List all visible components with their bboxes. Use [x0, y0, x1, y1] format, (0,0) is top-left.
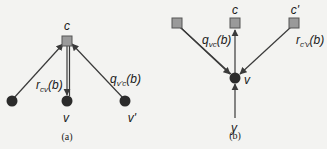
- variable-node-v: [230, 73, 241, 84]
- check-node-left: [172, 18, 182, 28]
- variable-node-vprime: [120, 96, 131, 107]
- caption-b: (b): [229, 130, 241, 142]
- variable-label-v: v: [63, 111, 70, 125]
- panel-b: c c' v y qvc(b) rc'v(b) (b): [172, 3, 324, 142]
- factor-graph-figure: c v v' rcv(b) qv'c(b) (a) c c' v y qvc(b…: [0, 0, 327, 149]
- message-label-q-vprimec: qv'c(b): [110, 72, 141, 88]
- message-label-r-cv: rcv(b): [36, 78, 63, 94]
- check-node-c: [230, 18, 240, 28]
- panel-a: c v v' rcv(b) qv'c(b) (a): [7, 19, 141, 143]
- check-label-cprime: c': [291, 3, 300, 17]
- message-label-r-cprimev: rc'v(b): [296, 33, 324, 49]
- check-label-c: c: [232, 3, 238, 17]
- variable-node-left: [7, 96, 18, 107]
- check-node-c: [62, 36, 72, 46]
- variable-node-v: [62, 96, 73, 107]
- message-label-q-vc: qvc(b): [202, 33, 231, 49]
- edge-cprime-to-v: [240, 27, 291, 74]
- variable-label-vprime: v': [128, 111, 137, 125]
- check-node-cprime: [289, 18, 299, 28]
- check-node-label: c: [64, 19, 70, 33]
- variable-label-v: v: [244, 73, 251, 87]
- caption-a: (a): [61, 131, 72, 143]
